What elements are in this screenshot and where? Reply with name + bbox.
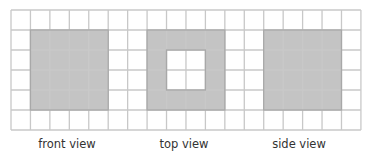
views-grid [10, 9, 362, 131]
top-view-label: top view [160, 137, 209, 151]
front-view-label: front view [38, 137, 96, 151]
side-view-label: side view [272, 137, 326, 151]
